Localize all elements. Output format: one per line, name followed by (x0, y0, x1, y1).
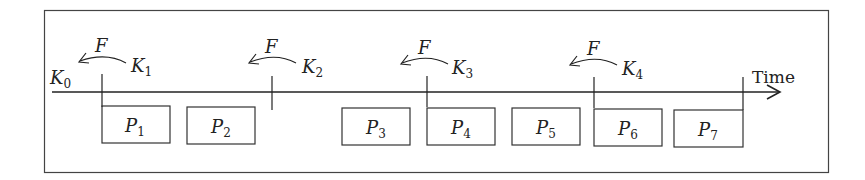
process-label-p2: P2 (210, 116, 231, 140)
process-boxes (102, 106, 743, 147)
arrow-label-f4: F (586, 38, 601, 59)
process-label-p7: P7 (697, 119, 718, 143)
process-label-p4: P4 (450, 117, 471, 141)
rollback-arrows (79, 53, 617, 66)
arrow-label-f2: F (264, 36, 279, 57)
checkpoint-label-k2: K2 (301, 56, 323, 80)
arrow-label-f1: F (94, 35, 109, 56)
process-label-p6: P6 (617, 118, 638, 142)
process-label-p3: P3 (365, 117, 386, 141)
checkpoint-label-k0: K0 (49, 67, 71, 91)
checkpoint-label-k1: K1 (130, 55, 152, 79)
time-axis-label: Time (752, 67, 795, 87)
arrow-label-f3: F (417, 37, 432, 58)
checkpoint-label-k4: K4 (621, 58, 643, 82)
process-label-p5: P5 (535, 117, 556, 141)
process-label-p1: P1 (124, 115, 145, 139)
checkpoint-label-k3: K3 (451, 57, 473, 81)
time-axis (52, 85, 780, 99)
timeline-diagram: Time K0 F F F F K1 K2 K3 K4 (0, 0, 865, 180)
